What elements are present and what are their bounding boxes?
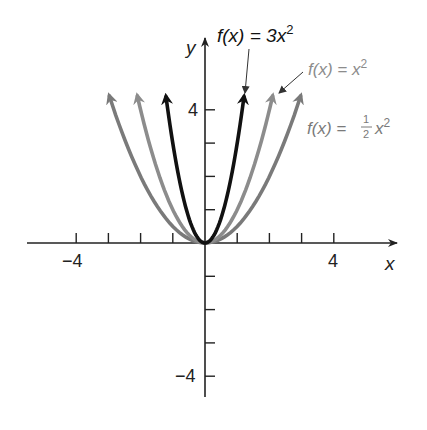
x-tick-label-4: 4 (328, 251, 338, 271)
curve-x2-right (205, 96, 273, 243)
x-axis-label: x (384, 253, 396, 274)
y-tick-label-neg4: −4 (175, 366, 196, 386)
label-half-num: 1 (363, 113, 369, 125)
label-x2: f(x) = x2 (308, 57, 367, 79)
label-half-x2: f(x) = (307, 119, 346, 138)
y-axis-label: y (184, 37, 197, 58)
label-half-den: 2 (363, 128, 369, 140)
chart: x y −4 4 4 −4 f(x) = 3x2 f(x) = x2 f(x) … (0, 0, 427, 430)
axes (27, 38, 397, 397)
pointer-x2 (279, 72, 303, 93)
labels: x y −4 4 4 −4 f(x) = 3x2 f(x) = x2 f(x) … (62, 22, 396, 386)
curve-3x2-right (205, 97, 244, 243)
pointer-3x2 (245, 49, 249, 93)
x-tick-label-neg4: −4 (62, 251, 83, 271)
plot-area: x y −4 4 4 −4 f(x) = 3x2 f(x) = x2 f(x) … (0, 0, 427, 430)
label-3x2: f(x) = 3x2 (217, 22, 293, 46)
curve-3x2-left (166, 97, 205, 243)
label-half-x: x2 (374, 116, 391, 138)
y-tick-label-4: 4 (188, 100, 198, 120)
